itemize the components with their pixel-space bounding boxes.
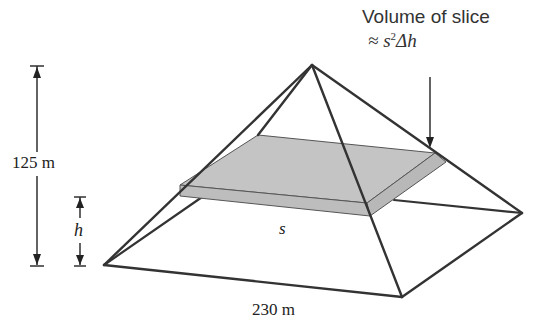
edge-base-front-right (402, 213, 522, 297)
base-width-label: 230 m (252, 300, 295, 320)
pyramid-drawing (0, 0, 534, 333)
slice-height-label: h (74, 220, 83, 241)
pyramid-diagram: Volume of slice ≈ s2Δh 125 m h s 230 m (0, 0, 534, 333)
slice-volume-formula: ≈ s2Δh (368, 30, 417, 52)
edge-base-front-left (104, 265, 402, 297)
edge-apex-back (258, 65, 312, 135)
pyramid-height-label: 125 m (12, 153, 55, 173)
formula-suffix: Δh (396, 30, 417, 51)
slice-slab (180, 135, 446, 216)
slice-volume-title: Volume of slice (362, 6, 490, 28)
slice-pointer-arrow (426, 77, 434, 148)
formula-prefix: ≈ s (368, 30, 391, 51)
slice-side-label: s (279, 219, 286, 239)
